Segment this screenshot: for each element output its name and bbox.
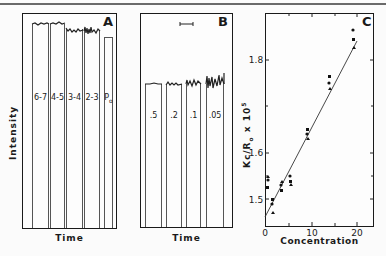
fit-line	[265, 41, 357, 217]
panel-c-ticks	[265, 13, 374, 227]
panel-a-traces	[32, 22, 100, 34]
plot-graphics	[0, 0, 386, 256]
series-circles	[266, 28, 354, 205]
scale-bar-icon	[180, 22, 193, 26]
series-squares	[266, 38, 355, 201]
panel-b-traces	[145, 73, 224, 88]
